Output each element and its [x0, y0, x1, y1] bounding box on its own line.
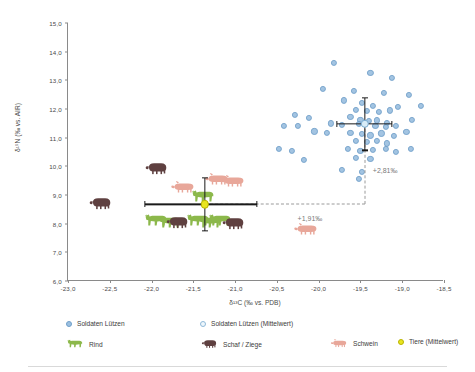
scatter-point-soldier — [381, 90, 387, 96]
scatter-point-soldier — [301, 157, 307, 163]
scatter-point-soldier — [306, 115, 312, 121]
x-axis-label: δ¹³C (‰ vs. PDB) — [229, 299, 280, 306]
x-axis-tick-label: -23,0 — [60, 285, 75, 292]
legend-row-primary: Soldaten LützenSoldaten Lützen (Mittelwe… — [0, 318, 475, 334]
animal-mean-xerror-cap — [144, 201, 145, 207]
plot-area: +2,81‰+1,91‰ 6,07,08,09,010,011,012,013,… — [67, 23, 443, 281]
scatter-point-soldier — [295, 123, 301, 129]
scatter-point-soldier — [324, 129, 330, 135]
delta-annotation-vertical-offset: +2,81‰ — [373, 167, 398, 174]
chart-figure: δ¹⁵N (‰ vs. AIR) δ¹³C (‰ vs. PDB) — [0, 0, 475, 372]
scatter-point-soldier — [353, 155, 359, 161]
y-axis-tick-mark — [65, 51, 68, 52]
scatter-point-soldier — [418, 103, 424, 109]
legend-row-animals: Rind Schaf / Ziege SchweinTiere (Mittelw… — [0, 336, 475, 352]
scatter-point-soldier — [382, 124, 388, 130]
scatter-point-soldier — [289, 147, 295, 153]
scatter-point-soldier — [391, 133, 397, 139]
sheep-icon — [200, 338, 218, 350]
y-axis-tick-label: 11,0 — [50, 134, 62, 141]
scatter-point-soldier — [341, 97, 347, 103]
mean-marker-soldiers — [360, 120, 368, 128]
soldier-mean-xerror-cap — [336, 121, 337, 127]
scatter-point-soldier — [389, 75, 395, 81]
x-axis-tick-label: -19,5 — [353, 285, 368, 292]
scatter-point-soldier — [387, 107, 393, 113]
x-axis-tick-mark — [68, 280, 69, 283]
legend-item[interactable]: Schwein — [330, 338, 378, 349]
legend-item[interactable]: Tiere (Mittelwert) — [398, 338, 458, 345]
soldier-mean-xerror-cap — [392, 121, 393, 127]
y-axis-tick-label: 6,0 — [53, 278, 62, 285]
y-axis-tick-label: 12,0 — [49, 106, 62, 113]
y-axis-tick-mark — [65, 195, 68, 196]
animal-mean-yerror-cap — [202, 177, 208, 178]
legend-item[interactable]: Soldaten Lützen — [66, 320, 125, 327]
x-axis-tick-mark — [235, 280, 236, 283]
legend-item-label: Schaf / Ziege — [223, 341, 262, 348]
legend-item[interactable]: Rind — [66, 338, 103, 350]
scatter-point-soldier — [280, 123, 286, 129]
y-axis-tick-label: 10,0 — [49, 163, 62, 170]
cow-icon — [66, 338, 84, 350]
scatter-point-soldier — [353, 137, 359, 143]
scatter-point-soldier — [275, 145, 281, 151]
y-axis-label: δ¹⁵N (‰ vs. AIR) — [14, 103, 21, 152]
x-axis-tick-label: -19,0 — [395, 285, 410, 292]
legend-item-label: Rind — [89, 341, 103, 348]
scatter-point-soldier — [351, 88, 357, 94]
soldier-mean-yerror-cap — [362, 150, 368, 151]
legend-divider — [28, 366, 447, 367]
sheep-icon — [220, 215, 246, 231]
sheep-icon — [87, 195, 113, 211]
legend-dot-soldier — [66, 321, 72, 327]
x-axis-tick-mark — [319, 280, 320, 283]
scatter-point-soldier — [356, 176, 362, 182]
scatter-point-soldier — [392, 123, 398, 129]
x-axis-tick-mark — [110, 280, 111, 283]
pig-icon — [330, 338, 348, 349]
x-axis-tick-mark — [152, 280, 153, 283]
scatter-point-soldier — [367, 132, 373, 138]
scatter-point-soldier — [320, 86, 326, 92]
scatter-point-soldier — [370, 147, 376, 153]
pig-icon — [293, 221, 319, 236]
y-axis-tick-label: 7,0 — [53, 249, 62, 256]
legend-item-label: Tiere (Mittelwert) — [409, 338, 458, 345]
sheep-icon — [164, 214, 190, 230]
x-axis-tick-label: -20,0 — [311, 285, 326, 292]
x-axis-tick-mark — [277, 280, 278, 283]
legend-dot-soldier-mean — [200, 321, 206, 327]
y-axis-tick-mark — [65, 252, 68, 253]
y-axis-tick-mark — [65, 137, 68, 138]
scatter-point-soldier — [339, 167, 345, 173]
scatter-point-soldier — [409, 117, 415, 123]
y-axis-tick-mark — [65, 166, 68, 167]
x-axis-tick-label: -21,0 — [228, 285, 243, 292]
x-axis-tick-label: -21,5 — [186, 285, 201, 292]
y-axis-tick-label: 9,0 — [53, 192, 62, 199]
scatter-point-soldier — [347, 114, 353, 120]
y-axis-tick-label: 15,0 — [49, 20, 62, 27]
mean-marker-animals — [201, 200, 209, 208]
x-axis-tick-label: -22,0 — [144, 285, 159, 292]
scatter-point-soldier — [382, 146, 388, 152]
animal-mean-xerror-cap — [256, 201, 257, 207]
delta-annotation-horizontal-offset: +1,91‰ — [298, 215, 323, 222]
y-axis-tick-mark — [65, 223, 68, 224]
legend-item[interactable]: Soldaten Lützen (Mittelwert) — [200, 320, 293, 327]
scatter-point-soldier — [378, 130, 384, 136]
scatter-point-soldier — [367, 70, 373, 76]
scatter-point-soldier — [374, 138, 380, 144]
animal-mean-yerror-cap — [202, 230, 208, 231]
y-axis-tick-label: 14,0 — [49, 48, 62, 55]
scatter-point-soldier — [331, 59, 337, 65]
y-axis-tick-mark — [65, 109, 68, 110]
soldier-mean-yerror-cap — [362, 97, 368, 98]
scatter-point-soldier — [345, 145, 351, 151]
scatter-point-soldier — [403, 129, 409, 135]
scatter-point-soldier — [376, 109, 382, 115]
y-axis-tick-label: 13,0 — [49, 77, 62, 84]
legend-item[interactable]: Schaf / Ziege — [200, 338, 262, 350]
scatter-point-soldier — [347, 129, 353, 135]
